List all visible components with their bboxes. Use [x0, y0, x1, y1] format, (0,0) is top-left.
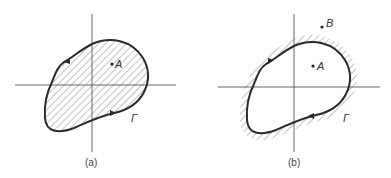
- panel-a: A Γ (a): [15, 14, 176, 168]
- point-a-dot: [110, 62, 113, 65]
- caption-b: (b): [288, 157, 300, 168]
- gamma-label: Γ: [131, 112, 138, 124]
- point-b-label: B: [326, 17, 333, 29]
- caption-a: (a): [85, 157, 97, 168]
- contour-diagram: A Γ (a) A B Γ (b): [0, 0, 391, 178]
- point-a-label: A: [316, 60, 324, 72]
- panel-b: A B Γ (b): [218, 14, 380, 168]
- point-a-label: A: [114, 58, 122, 70]
- point-b-dot: [320, 25, 323, 28]
- point-a-dot: [311, 64, 314, 67]
- gamma-label: Γ: [343, 112, 350, 124]
